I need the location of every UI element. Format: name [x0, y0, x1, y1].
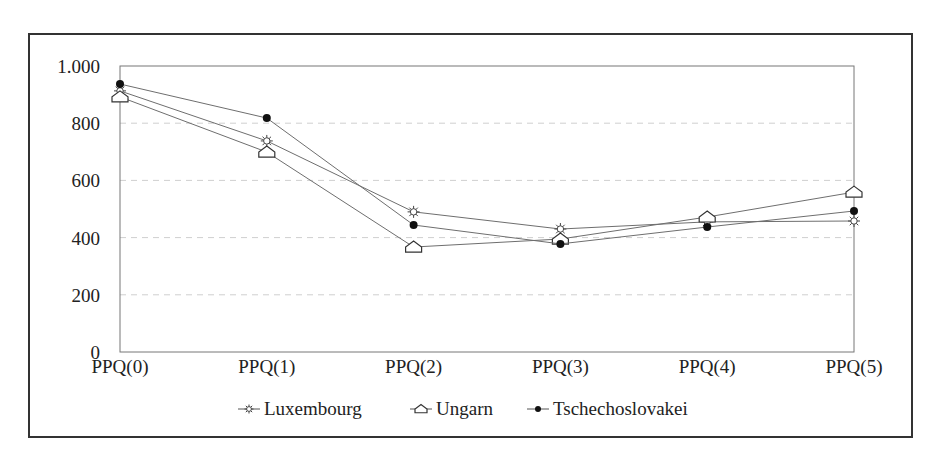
legend: Luxembourg Ungarn Tschechoslovakei	[238, 398, 688, 419]
gridlines	[120, 123, 854, 295]
series-tschechoslovakei	[116, 80, 858, 248]
dot-marker-icon	[850, 207, 858, 215]
x-tick-label: PPQ(0)	[91, 356, 148, 378]
x-tick-label: PPQ(4)	[679, 356, 736, 378]
series-lines	[112, 80, 862, 252]
sun-marker-icon	[261, 135, 273, 147]
legend-label: Luxembourg	[264, 398, 362, 419]
sun-marker-icon	[245, 405, 254, 414]
house-marker-icon	[846, 186, 862, 197]
sun-marker-icon	[848, 215, 860, 227]
y-tick-label: 1.000	[57, 56, 100, 77]
sun-marker-icon	[245, 405, 254, 414]
x-axis-tick-labels: PPQ(0)PPQ(1)PPQ(2)PPQ(3)PPQ(4)PPQ(5)	[91, 356, 882, 378]
legend-item-tschechoslovakei: Tschechoslovakei	[527, 398, 688, 419]
x-tick-label: PPQ(5)	[825, 356, 882, 378]
dot-marker-icon	[116, 80, 124, 88]
series-ungarn	[112, 91, 862, 252]
dot-marker-icon	[703, 223, 711, 231]
series-line	[120, 84, 854, 244]
plot-area	[120, 66, 854, 352]
x-tick-label: PPQ(3)	[532, 356, 589, 378]
dot-marker-icon	[556, 240, 564, 248]
series-line	[120, 91, 854, 229]
y-tick-label: 400	[72, 228, 101, 249]
house-marker-icon	[259, 146, 275, 157]
x-tick-label: PPQ(1)	[238, 356, 295, 378]
legend-item-luxembourg: Luxembourg	[238, 398, 362, 419]
sun-marker-icon	[408, 206, 420, 218]
dot-marker-icon	[535, 406, 541, 412]
y-axis-tick-labels: 02004006008001.000	[57, 56, 100, 363]
house-marker-icon	[406, 241, 422, 252]
x-tick-label: PPQ(2)	[385, 356, 442, 378]
y-tick-label: 200	[72, 285, 101, 306]
dot-marker-icon	[263, 114, 271, 122]
dot-marker-icon	[535, 406, 541, 412]
legend-item-ungarn: Ungarn	[410, 398, 493, 419]
legend-label: Ungarn	[436, 398, 493, 419]
series-line	[120, 97, 854, 247]
legend-label: Tschechoslovakei	[553, 398, 688, 419]
y-tick-label: 800	[72, 113, 101, 134]
house-marker-icon	[699, 211, 715, 222]
dot-marker-icon	[410, 221, 418, 229]
house-marker-icon	[415, 405, 427, 413]
line-chart: 02004006008001.000 PPQ(0)PPQ(1)PPQ(2)PPQ…	[0, 0, 939, 466]
y-tick-label: 600	[72, 170, 101, 191]
series-luxembourg	[114, 85, 860, 235]
house-marker-icon	[415, 405, 427, 413]
